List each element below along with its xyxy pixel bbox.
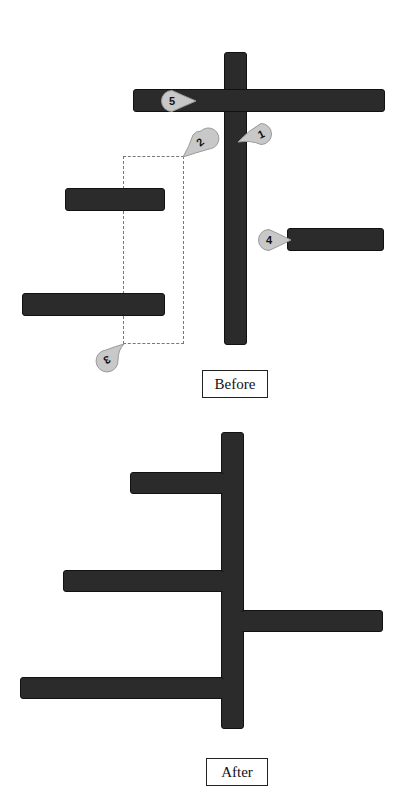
diagram-canvas: 5 1 2 3 4 (0, 0, 411, 809)
teardrop-pointer-top-right-icon: 3 (94, 342, 126, 374)
callout-3: 3 (94, 342, 126, 374)
after-branch-left-short[interactable] (130, 472, 224, 494)
teardrop-pointer-bottom-left-icon: 2 (181, 129, 213, 159)
after-branch-left-long[interactable] (20, 677, 224, 699)
before-caption: Before (202, 370, 268, 398)
after-joint-4 (218, 679, 226, 698)
before-cross-joint (225, 90, 246, 111)
after-joint-2 (218, 572, 226, 591)
teardrop-pointer-right-icon: 4 (257, 228, 293, 252)
after-joint-3 (239, 612, 247, 631)
svg-text:4: 4 (266, 234, 273, 246)
teardrop-pointer-right-icon: 5 (160, 89, 198, 113)
after-joint-1 (218, 474, 226, 493)
callout-2: 2 (181, 129, 213, 159)
callout-5: 5 (160, 89, 198, 113)
callout-1: 1 (237, 122, 273, 146)
before-right-bar[interactable] (287, 228, 384, 251)
after-branch-right[interactable] (241, 610, 383, 632)
before-left-bar-b[interactable] (22, 293, 165, 316)
callout-4: 4 (257, 228, 293, 252)
after-caption: After (206, 758, 268, 786)
teardrop-pointer-left-icon: 1 (237, 122, 273, 146)
svg-text:5: 5 (169, 95, 175, 107)
before-left-bar-a[interactable] (65, 188, 165, 211)
after-branch-left-mid[interactable] (63, 570, 224, 592)
